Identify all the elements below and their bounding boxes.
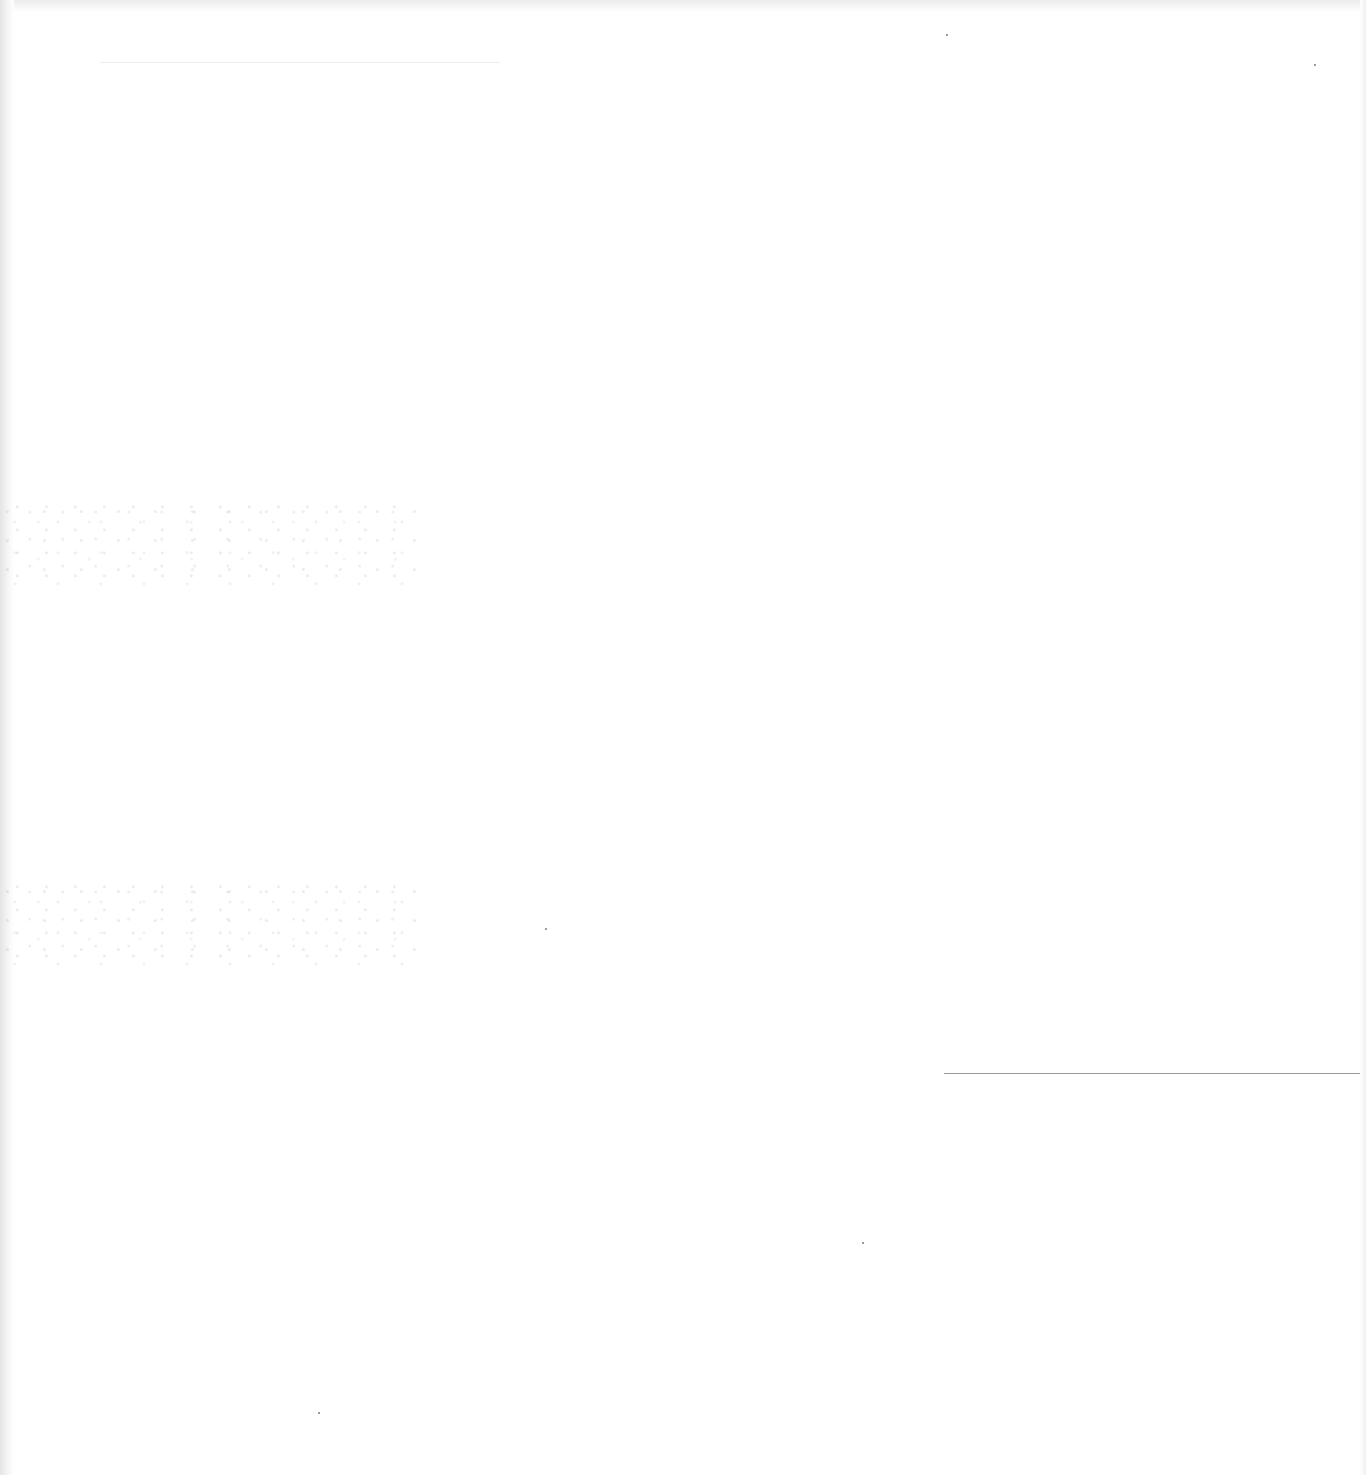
scan-dust-speck — [318, 1412, 320, 1414]
scan-noise-band — [0, 500, 420, 590]
scan-left-edge-shadow — [0, 0, 14, 1475]
scan-right-edge-shadow — [1360, 0, 1366, 1475]
scan-dust-speck — [946, 34, 948, 36]
scan-top-edge-shadow — [0, 0, 1366, 12]
scan-dust-speck — [1314, 64, 1316, 66]
faint-top-line — [100, 62, 500, 63]
blank-document-page — [0, 0, 1366, 1475]
horizontal-rule — [944, 1073, 1360, 1074]
scan-noise-band — [0, 880, 420, 970]
scan-dust-speck — [545, 928, 547, 930]
scan-dust-speck — [862, 1242, 864, 1244]
